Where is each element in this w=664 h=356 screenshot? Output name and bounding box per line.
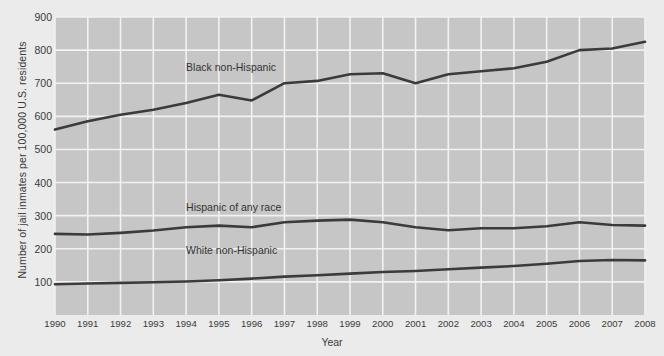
y-tick-label: 500	[6, 143, 52, 155]
x-tick-label: 1991	[77, 318, 98, 329]
x-tick-label: 2000	[372, 318, 393, 329]
x-tick-label: 2001	[405, 318, 426, 329]
y-axis-tick-labels: 100200300400500600700800900	[0, 0, 52, 356]
y-tick-label: 600	[6, 110, 52, 122]
x-tick-label: 1997	[274, 318, 295, 329]
y-tick-label: 800	[6, 44, 52, 56]
x-tick-label: 1993	[143, 318, 164, 329]
series-label: Black non-Hispanic	[186, 61, 276, 73]
x-tick-label: 1996	[241, 318, 262, 329]
y-tick-label: 300	[6, 210, 52, 222]
series-label: White non-Hispanic	[186, 244, 277, 256]
x-axis-title: Year	[0, 336, 664, 348]
y-tick-label: 400	[6, 177, 52, 189]
chart-figure: Number of jail inmates per 100,000 U.S. …	[0, 0, 664, 356]
x-tick-label: 2002	[438, 318, 459, 329]
x-tick-label: 2006	[569, 318, 590, 329]
x-tick-label: 2008	[634, 318, 655, 329]
y-tick-label: 700	[6, 77, 52, 89]
x-axis-tick-labels: 1990199119921993199419951996199719981999…	[0, 318, 664, 334]
x-tick-label: 1999	[339, 318, 360, 329]
x-tick-label: 1995	[208, 318, 229, 329]
x-tick-label: 1998	[307, 318, 328, 329]
y-tick-label: 100	[6, 276, 52, 288]
x-tick-label: 2007	[602, 318, 623, 329]
series-label: Hispanic of any race	[186, 201, 281, 213]
y-tick-label: 900	[6, 11, 52, 23]
x-tick-label: 2003	[470, 318, 491, 329]
x-tick-label: 2004	[503, 318, 524, 329]
x-tick-label: 1992	[110, 318, 131, 329]
x-tick-label: 1994	[175, 318, 196, 329]
x-tick-label: 2005	[536, 318, 557, 329]
plot-area	[0, 0, 664, 356]
x-tick-label: 1990	[44, 318, 65, 329]
y-tick-label: 200	[6, 243, 52, 255]
